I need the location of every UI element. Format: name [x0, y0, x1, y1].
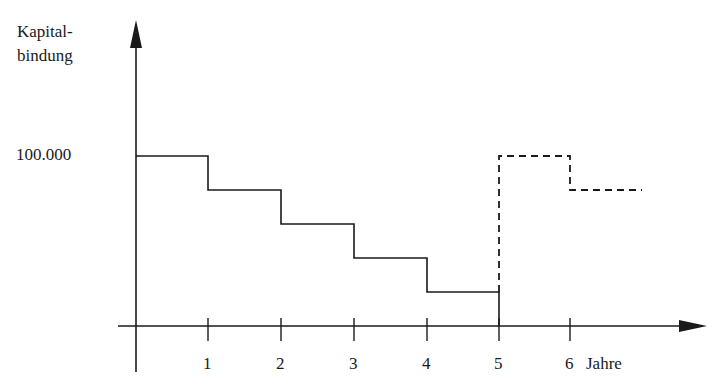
y-axis-arrow-icon [130, 20, 142, 48]
x-tick-label-3: 3 [349, 354, 358, 374]
x-tick-label-2: 2 [276, 354, 285, 374]
x-axis-arrow-icon [679, 320, 707, 332]
step-chart [0, 0, 719, 392]
x-tick-label-1: 1 [203, 354, 212, 374]
x-tick-label-6: 6 [565, 354, 574, 374]
y-tick-label-100000: 100.000 [16, 145, 71, 165]
y-axis-label-line1: Kapital- [17, 22, 73, 42]
y-axis-label-line2: bindung [17, 46, 73, 66]
x-ticks [208, 318, 570, 341]
series-solid-step [136, 156, 499, 326]
x-tick-label-4: 4 [422, 354, 431, 374]
series-dashed-step [499, 156, 642, 292]
x-tick-label-5: 5 [494, 354, 503, 374]
x-axis-label: Jahre [586, 354, 622, 374]
